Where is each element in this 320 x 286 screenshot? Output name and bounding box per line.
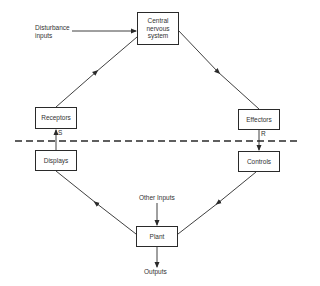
cns-to-effectors-arrow (178, 30, 259, 109)
receptors-label: Receptors (41, 114, 71, 122)
r-label: R (261, 130, 266, 138)
plant-label: Plant (150, 233, 165, 241)
plant-box: Plant (136, 226, 178, 247)
receptors-to-cns-arrow (56, 37, 137, 107)
effectors-box: Effectors (238, 109, 280, 130)
s-label: S (58, 129, 62, 137)
controls-label: Controls (247, 158, 271, 166)
effectors-label: Effectors (246, 116, 272, 124)
plant-to-displays-arrow (56, 171, 136, 234)
controls-to-plant-arrow (178, 172, 256, 234)
disturbance-label: Disturbance inputs (35, 24, 70, 39)
controls-box: Controls (238, 151, 280, 172)
displays-label: Displays (44, 157, 69, 165)
cns-box: Central nervous system (137, 12, 179, 45)
displays-box: Displays (35, 150, 77, 171)
receptors-box: Receptors (35, 107, 77, 129)
other-inputs-label: Other Inputs (139, 194, 175, 202)
disturbance-line1: Disturbance (35, 24, 70, 32)
cns-label: Central nervous system (143, 17, 173, 40)
outputs-label: Outputs (144, 268, 167, 276)
disturbance-line2: inputs (35, 32, 70, 40)
